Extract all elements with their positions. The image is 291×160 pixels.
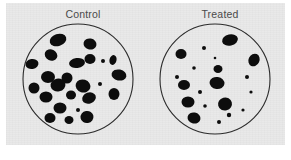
colony bbox=[98, 82, 102, 86]
colony bbox=[76, 108, 80, 112]
dish-group-control: Control bbox=[20, 8, 146, 142]
dish-label-control: Control bbox=[20, 8, 146, 20]
colony bbox=[108, 54, 117, 65]
colony bbox=[182, 97, 195, 108]
colony bbox=[74, 78, 92, 95]
colony bbox=[198, 90, 202, 94]
colony bbox=[192, 66, 196, 70]
colony bbox=[246, 52, 261, 68]
colony bbox=[54, 103, 67, 114]
colony bbox=[214, 57, 217, 60]
colony bbox=[83, 37, 98, 50]
colony bbox=[245, 75, 249, 79]
colony bbox=[176, 49, 187, 59]
colony bbox=[241, 108, 244, 111]
figure-canvas: Control Treated bbox=[0, 0, 291, 160]
colony bbox=[81, 90, 98, 105]
colony bbox=[109, 88, 120, 100]
colony bbox=[85, 54, 96, 64]
colony bbox=[217, 120, 221, 124]
colony bbox=[111, 68, 128, 82]
colony bbox=[43, 47, 59, 62]
colony bbox=[175, 75, 179, 79]
dish-group-treated: Treated bbox=[157, 8, 283, 142]
petri-dish-treated bbox=[157, 22, 283, 140]
colony bbox=[202, 46, 206, 50]
colony bbox=[249, 90, 252, 93]
colony bbox=[203, 104, 207, 108]
colony bbox=[209, 76, 226, 90]
dish-label-treated: Treated bbox=[157, 8, 283, 20]
figure-panel: Control Treated bbox=[6, 3, 285, 145]
colony bbox=[48, 32, 68, 49]
colony bbox=[227, 113, 231, 117]
colony bbox=[178, 80, 190, 90]
colony bbox=[221, 33, 239, 47]
petri-dish-control bbox=[20, 22, 146, 140]
colony bbox=[66, 91, 76, 100]
colony bbox=[40, 92, 53, 103]
colony bbox=[101, 59, 105, 63]
colony bbox=[29, 83, 40, 94]
colony bbox=[217, 96, 234, 112]
colony bbox=[68, 57, 85, 69]
colony bbox=[80, 110, 95, 124]
colony bbox=[45, 113, 56, 123]
colony bbox=[187, 111, 202, 124]
colony bbox=[65, 116, 74, 124]
colony bbox=[214, 65, 223, 73]
